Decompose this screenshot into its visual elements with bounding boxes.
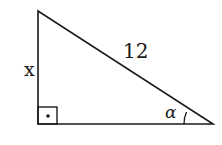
- hypotenuse-label: 12: [123, 41, 148, 61]
- angle-alpha-label: α: [165, 104, 176, 121]
- right-angle-dot: [46, 114, 50, 118]
- right-triangle-diagram: x 12 α: [0, 0, 222, 145]
- angle-alpha-arc: [184, 112, 187, 124]
- vertical-leg-label: x: [24, 60, 35, 79]
- triangle-outline: [38, 11, 213, 124]
